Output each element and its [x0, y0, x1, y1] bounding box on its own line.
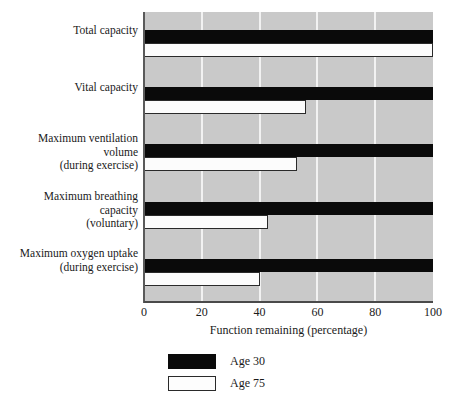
- bar-age30-max-breathing-capacity: [144, 202, 433, 215]
- category-label-total-capacity: Total capacity: [8, 24, 144, 38]
- bar-age75-max-ventilation-volume: [144, 157, 297, 171]
- legend-swatch-age-75: [168, 376, 216, 391]
- category-label-max-breathing-capacity: Maximum breathing capacity (voluntary): [8, 190, 144, 231]
- bar-age30-max-ventilation-volume: [144, 144, 433, 157]
- category-label-max-oxygen-uptake: Maximum oxygen uptake (during exercise): [8, 247, 144, 274]
- xtick-label-60: 60: [297, 305, 337, 319]
- bar-age30-vital-capacity: [144, 87, 433, 100]
- category-label-line1: Maximum breathing capacity: [44, 190, 138, 216]
- x-axis-title: Function remaining (percentage): [144, 323, 433, 338]
- legend-label-age-30: Age 30: [230, 354, 265, 369]
- x-axis-line: [144, 301, 433, 303]
- xtick-label-40: 40: [240, 305, 280, 319]
- legend-label-age-75: Age 75: [230, 376, 265, 391]
- xtick-label-20: 20: [182, 305, 222, 319]
- legend-item-age-75: Age 75: [168, 375, 348, 394]
- plot-area: [144, 12, 433, 302]
- category-label-vital-capacity: Vital capacity: [8, 81, 144, 95]
- xtick-label-80: 80: [355, 305, 395, 319]
- bar-chart-figure: Total capacity Vital capacity Maximum ve…: [0, 0, 450, 405]
- category-label-line2: (voluntary): [8, 217, 138, 231]
- category-label-max-ventilation-volume: Maximum ventilation volume (during exerc…: [8, 132, 144, 173]
- category-label-line1: Vital capacity: [75, 81, 139, 93]
- category-label-line1: Maximum oxygen uptake: [20, 247, 138, 259]
- chart-legend: Age 30 Age 75: [168, 353, 348, 397]
- category-axis-labels: Total capacity Vital capacity Maximum ve…: [0, 0, 144, 302]
- bar-age30-total-capacity: [144, 30, 433, 43]
- bar-age75-vital-capacity: [144, 100, 306, 114]
- bar-age75-total-capacity: [144, 43, 433, 57]
- category-label-line2: (during exercise): [8, 159, 138, 173]
- xtick-label-100: 100: [413, 305, 450, 319]
- bar-age30-max-oxygen-uptake: [144, 259, 433, 272]
- category-label-line1: Maximum ventilation volume: [38, 132, 138, 158]
- legend-swatch-age-30: [168, 354, 216, 369]
- bar-age75-max-breathing-capacity: [144, 215, 268, 229]
- category-label-line1: Total capacity: [73, 24, 138, 36]
- bar-age75-max-oxygen-uptake: [144, 272, 260, 286]
- legend-item-age-30: Age 30: [168, 353, 348, 372]
- category-label-line2: (during exercise): [8, 261, 138, 275]
- xtick-label-0: 0: [124, 305, 164, 319]
